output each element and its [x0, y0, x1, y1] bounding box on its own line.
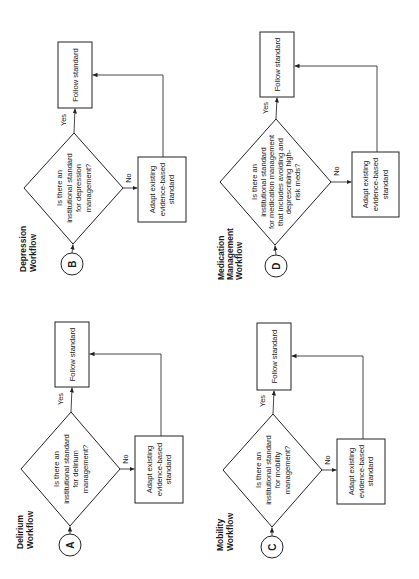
decision-text-line: management? [283, 446, 292, 495]
yes-label: Yes [258, 395, 267, 407]
workflow-title-line: Workflow [25, 511, 35, 549]
yes-arrow [71, 388, 72, 413]
adapt-standard-label-line: evidence-based [371, 158, 380, 212]
follow-standard-label: Follow standard [68, 328, 77, 382]
decision-text-line: management? [84, 164, 93, 213]
workflow-title-line: Workflow [234, 242, 244, 280]
connector-label: C [267, 543, 278, 550]
decision-text-line: institutional standard [65, 153, 74, 223]
adapt-standard-label-line: evidence-based [357, 445, 366, 499]
yes-arrow [74, 109, 75, 134]
adapt-standard-label-line: standard [167, 175, 176, 205]
adapt-standard-label-line: standard [164, 455, 173, 485]
decision-text-line: for depression [74, 164, 83, 212]
decision-text-line: institutional standard [62, 434, 71, 504]
yes-arrow [273, 391, 274, 415]
follow-standard-label: Follow standard [270, 330, 279, 384]
connector-arrow [275, 246, 276, 256]
workflow-a: DeliriumWorkflowAIs there aninstitutiona… [15, 322, 183, 556]
workflow-title: MedicationManagementWorkflow [216, 228, 244, 280]
no-label: No [323, 455, 332, 464]
workflow-title: DeliriumWorkflow [15, 511, 34, 549]
decision-text-line: Is there an [55, 170, 64, 206]
connector-label: B [67, 260, 78, 267]
adapt-standard-label-line: evidence-based [158, 163, 167, 217]
workflow-b: DepressionWorkflowBIs there aninstitutio… [18, 42, 186, 275]
no-label: No [121, 454, 130, 463]
adapt-standard-label-line: Adapt existing [148, 166, 157, 214]
decision-text-line: institutional standard [264, 435, 273, 505]
follow-standard-label: Follow standard [71, 48, 80, 102]
decision-text-line: Is there an [254, 452, 263, 488]
adapt-standard-label-line: standard [381, 170, 390, 200]
no-label: No [332, 166, 341, 175]
return-arrow [93, 75, 164, 157]
yes-label: Yes [59, 114, 68, 126]
adapt-standard-label-line: standard [366, 457, 375, 487]
workflow-c: MobilityWorkflowCIs there aninstitutiona… [215, 323, 385, 558]
connector-label: D [271, 262, 282, 269]
adapt-standard-label-line: Adapt existing [361, 161, 370, 209]
connector-arrow [72, 245, 73, 254]
adapt-standard-label-line: Adapt existing [347, 448, 356, 496]
workflow-title: DepressionWorkflow [18, 226, 37, 272]
decision-text-line: management? [81, 445, 90, 494]
workflow-title-line: Workflow [225, 513, 235, 551]
return-arrow [292, 356, 364, 439]
yes-label: Yes [261, 102, 270, 114]
decision-text-line: risk meds? [293, 164, 302, 201]
return-arrow [90, 354, 162, 436]
decision-text-line: Is there an [52, 451, 61, 487]
workflow-title: MobilityWorkflow [215, 513, 234, 551]
no-label: No [124, 173, 133, 182]
return-arrow [295, 66, 378, 152]
decision-text-line: for delirium [71, 450, 80, 488]
connector-node: B [61, 253, 83, 275]
yes-label: Yes [56, 393, 65, 405]
decision-text-line: for mobility [273, 451, 282, 488]
adapt-standard-label-line: evidence-based [155, 443, 164, 497]
connector-node: D [265, 255, 287, 277]
workflow-diagrams: DepressionWorkflowBIs there aninstitutio… [0, 0, 419, 579]
connector-node: A [59, 534, 81, 556]
connector-label: A [65, 541, 76, 548]
workflow-d: MedicationManagementWorkflowDIs there an… [216, 32, 399, 280]
connector-node: C [261, 536, 283, 558]
adapt-standard-label-line: Adapt existing [145, 446, 154, 494]
yes-arrow [276, 98, 277, 120]
follow-standard-label: Follow standard [273, 38, 282, 92]
workflow-title-line: Workflow [28, 234, 38, 272]
